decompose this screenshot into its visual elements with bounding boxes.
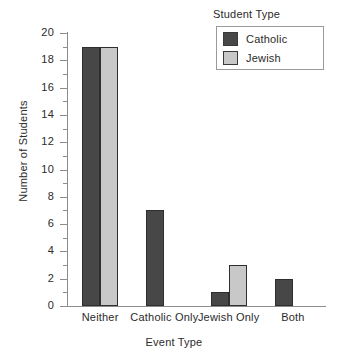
bar-neither-catholic <box>82 47 100 306</box>
y-tick-label: 2 <box>14 272 54 284</box>
y-tick-label: 16 <box>14 81 54 93</box>
y-tick-label: 14 <box>14 108 54 120</box>
y-tick-major <box>60 142 68 143</box>
y-tick-major <box>60 88 68 89</box>
y-tick-major <box>60 279 68 280</box>
y-tick-major <box>60 224 68 225</box>
y-tick-major <box>60 197 68 198</box>
y-tick-label: 0 <box>14 299 54 311</box>
bar-chart: Student Type Catholic Jewish Number of S… <box>0 0 348 360</box>
x-axis-line <box>67 306 326 307</box>
y-tick-label: 12 <box>14 135 54 147</box>
y-tick-major <box>60 60 68 61</box>
y-tick-major <box>60 170 68 171</box>
bar-both-catholic <box>275 279 293 306</box>
y-tick-label: 10 <box>14 163 54 175</box>
y-tick-label: 18 <box>14 53 54 65</box>
y-tick-label: 20 <box>14 26 54 38</box>
y-tick-major <box>60 251 68 252</box>
y-tick-label: 8 <box>14 190 54 202</box>
y-tick-label: 4 <box>14 244 54 256</box>
y-tick-major <box>60 115 68 116</box>
plot-area <box>68 33 325 306</box>
x-axis-title: Event Type <box>0 336 348 348</box>
bar-catholic-only-catholic <box>146 210 164 306</box>
y-tick-major <box>60 306 68 307</box>
bar-jewish-only-jewish <box>229 265 247 306</box>
y-tick-major <box>60 33 68 34</box>
bar-neither-jewish <box>100 47 118 306</box>
y-tick-label: 6 <box>14 217 54 229</box>
x-tick-label-both: Both <box>243 311 343 323</box>
legend-title: Student Type <box>213 8 343 20</box>
bar-jewish-only-catholic <box>211 292 229 306</box>
